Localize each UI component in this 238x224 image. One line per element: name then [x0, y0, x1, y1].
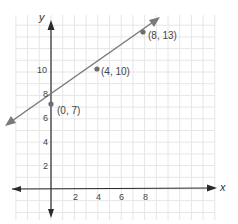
x-tick-6: 6: [119, 193, 124, 202]
x-tick-2: 2: [73, 193, 78, 202]
x-axis-arrow-left-icon: [12, 186, 21, 192]
y-axis-arrow-down-icon: [48, 209, 54, 218]
y-tick-6: 6: [43, 114, 48, 123]
y-tick-2: 2: [43, 162, 48, 171]
y-axis-label: y: [39, 12, 45, 23]
point-label-4-10: (4, 10): [101, 67, 130, 77]
x-axis: [12, 185, 217, 193]
line-arrow-lower-icon: [5, 116, 16, 126]
x-axis-label: x: [220, 182, 226, 193]
coordinate-plane: [0, 0, 238, 224]
point-4-10: [94, 66, 99, 71]
y-tick-10: 10: [37, 66, 47, 75]
x-tick-4: 4: [96, 193, 101, 202]
point-8-13: [140, 29, 145, 34]
x-axis-arrow-right-icon: [207, 185, 217, 192]
point-label-0-7: (0, 7): [57, 106, 80, 116]
y-tick-4: 4: [43, 138, 48, 147]
y-tick-8: 8: [43, 90, 48, 99]
x-tick-8: 8: [143, 193, 148, 202]
point-label-8-13: (8, 13): [148, 31, 177, 41]
point-0-7: [48, 101, 53, 106]
